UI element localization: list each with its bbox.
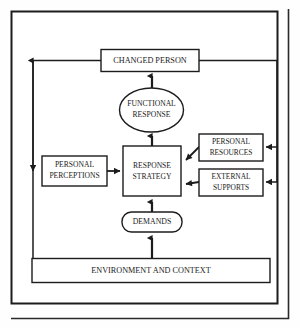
functional-response-label-line1: FUNCTIONAL xyxy=(127,99,176,108)
external-supports-label-line1: EXTERNAL xyxy=(212,172,251,181)
environment-and-context-label: ENVIRONMENT AND CONTEXT xyxy=(91,266,210,275)
node-external-supports[interactable]: EXTERNAL SUPPORTS xyxy=(199,169,263,196)
node-functional-response[interactable]: FUNCTIONAL RESPONSE xyxy=(120,88,184,132)
external-supports-label-line2: SUPPORTS xyxy=(213,183,249,192)
diagram-canvas: CHANGED PERSON FUNCTIONAL RESPONSE PERSO… xyxy=(0,0,300,328)
changed-person-label: CHANGED PERSON xyxy=(113,56,187,65)
node-environment-and-context[interactable]: ENVIRONMENT AND CONTEXT xyxy=(32,259,270,283)
personal-resources-label-line2: RESOURCES xyxy=(210,148,253,157)
personal-perceptions-label-line1: PERSONAL xyxy=(55,160,95,169)
node-response-strategy[interactable]: RESPONSE STRATEGY xyxy=(123,146,181,196)
response-strategy-label-line1: RESPONSE xyxy=(133,161,171,170)
response-strategy-diagram: CHANGED PERSON FUNCTIONAL RESPONSE PERSO… xyxy=(0,0,300,328)
personal-resources-label-line1: PERSONAL xyxy=(212,137,251,146)
node-changed-person[interactable]: CHANGED PERSON xyxy=(101,50,199,72)
demands-label: DEMANDS xyxy=(133,217,172,226)
personal-perceptions-label-line2: PERCEPTIONS xyxy=(49,171,99,180)
functional-response-label-line2: RESPONSE xyxy=(133,110,171,119)
node-personal-perceptions[interactable]: PERSONAL PERCEPTIONS xyxy=(42,156,107,186)
node-personal-resources[interactable]: PERSONAL RESOURCES xyxy=(199,134,263,161)
response-strategy-label-line2: STRATEGY xyxy=(133,172,172,181)
node-demands[interactable]: DEMANDS xyxy=(122,212,182,232)
